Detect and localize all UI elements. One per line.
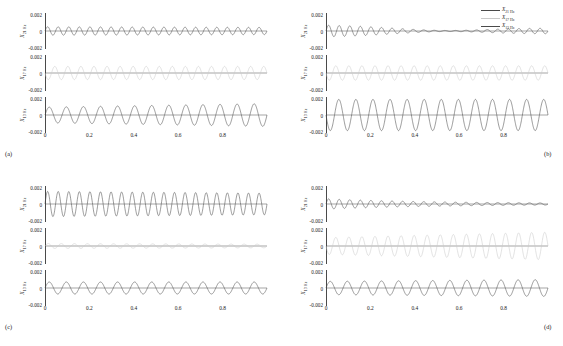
y-tick-label: -0.002 xyxy=(310,219,323,224)
y-tick-labels: 0.0020-0.002 xyxy=(295,183,325,225)
x-tick-label: 0 xyxy=(44,305,47,311)
legend: X21 HzX17 HzX13 Hz xyxy=(481,6,559,30)
subplot-x-21hz: X21 Hz0.0020-0.002 xyxy=(0,183,281,225)
y-tick-label: 0 xyxy=(320,245,323,250)
y-tick-label: -0.002 xyxy=(29,88,42,93)
x-tick-label: 0 xyxy=(325,132,328,138)
y-tick-label: -0.002 xyxy=(29,261,42,266)
subplot-x-17hz: X17 Hz0.0020-0.002 xyxy=(0,52,281,94)
x-tick-label: 0.4 xyxy=(130,132,137,138)
subplot-x-21hz: X21 Hz0.0020-0.002 xyxy=(0,10,281,52)
y-tick-label: 0 xyxy=(320,30,323,35)
y-tick-label: 0 xyxy=(320,287,323,292)
y-tick-labels: 0.0020-0.002 xyxy=(295,267,325,309)
y-tick-label: 0 xyxy=(320,114,323,119)
y-tick-label: -0.002 xyxy=(310,130,323,135)
y-tick-labels: 0.0020-0.002 xyxy=(14,10,44,52)
waveform-17hz xyxy=(45,55,267,91)
plot-area xyxy=(326,55,548,91)
x-tick-label: 0.4 xyxy=(411,305,418,311)
y-tick-label: 0 xyxy=(39,203,42,208)
x-tick-label: 0.8 xyxy=(219,305,226,311)
panel-d: X21 Hz0.0020-0.002X17 Hz0.0020-0.002X13 … xyxy=(281,173,562,346)
y-tick-labels: 0.0020-0.002 xyxy=(295,94,325,136)
y-tick-label: 0.002 xyxy=(311,186,323,191)
y-tick-labels: 0.0020-0.002 xyxy=(295,10,325,52)
x-tick-label: 0 xyxy=(44,132,47,138)
panel-b: X21 Hz0.0020-0.002X17 Hz0.0020-0.002X13 … xyxy=(281,0,562,173)
legend-item: X21 Hz xyxy=(481,6,559,14)
panel-label-a: (a) xyxy=(5,150,12,157)
x-tick-label: 0.8 xyxy=(500,305,507,311)
y-tick-label: -0.002 xyxy=(310,46,323,51)
x-tick-label: 0.2 xyxy=(86,305,93,311)
y-tick-label: -0.002 xyxy=(29,219,42,224)
y-tick-label: 0.002 xyxy=(30,13,42,18)
x-tick-label: 0.2 xyxy=(86,132,93,138)
y-tick-labels: 0.0020-0.002 xyxy=(14,94,44,136)
x-axis: 00.20.40.60.8 xyxy=(45,303,267,317)
y-tick-label: -0.002 xyxy=(29,303,42,308)
subplot-x-17hz: X17 Hz0.0020-0.002 xyxy=(0,225,281,267)
x-tick-label: 0.4 xyxy=(411,132,418,138)
y-tick-label: 0.002 xyxy=(30,55,42,60)
y-tick-label: -0.002 xyxy=(29,46,42,51)
x-axis: 00.20.40.60.8 xyxy=(326,303,548,317)
legend-swatch xyxy=(481,18,500,19)
waveform-21hz xyxy=(45,13,267,49)
plot-area xyxy=(45,228,267,264)
plot-area xyxy=(326,186,548,222)
y-tick-label: 0.002 xyxy=(311,13,323,18)
legend-label: X13 Hz xyxy=(502,22,514,30)
y-tick-label: 0.002 xyxy=(311,228,323,233)
legend-item: X13 Hz xyxy=(481,22,559,30)
legend-item: X17 Hz xyxy=(481,14,559,22)
y-tick-label: -0.002 xyxy=(310,303,323,308)
subplot-x-17hz: X17 Hz0.0020-0.002 xyxy=(281,52,562,94)
y-tick-label: 0.002 xyxy=(311,270,323,275)
panel-c: X21 Hz0.0020-0.002X17 Hz0.0020-0.002X13 … xyxy=(0,173,281,346)
y-tick-label: 0 xyxy=(320,203,323,208)
y-tick-label: 0 xyxy=(39,72,42,77)
legend-swatch xyxy=(481,26,500,27)
y-tick-label: 0.002 xyxy=(30,228,42,233)
plot-area xyxy=(45,186,267,222)
y-tick-labels: 0.0020-0.002 xyxy=(14,267,44,309)
y-tick-labels: 0.0020-0.002 xyxy=(14,183,44,225)
waveform-13hz xyxy=(45,97,267,133)
y-tick-label: 0.002 xyxy=(30,270,42,275)
x-tick-label: 0 xyxy=(325,305,328,311)
y-tick-label: 0.002 xyxy=(30,186,42,191)
plot-area xyxy=(45,270,267,306)
x-axis: 00.20.40.60.8 xyxy=(326,130,548,144)
y-tick-label: 0 xyxy=(39,287,42,292)
x-tick-label: 0.6 xyxy=(175,132,182,138)
waveform-13hz xyxy=(45,270,267,306)
plot-area xyxy=(45,97,267,133)
x-tick-label: 0.6 xyxy=(456,305,463,311)
panel-label-b: (b) xyxy=(544,150,551,157)
panel-label-c: (c) xyxy=(5,323,12,330)
legend-swatch xyxy=(481,10,500,11)
waveform-17hz xyxy=(326,228,548,264)
subplot-x-17hz: X17 Hz0.0020-0.002 xyxy=(281,225,562,267)
y-tick-label: -0.002 xyxy=(29,130,42,135)
x-axis: 00.20.40.60.8 xyxy=(45,130,267,144)
x-tick-label: 0.8 xyxy=(500,132,507,138)
y-tick-label: -0.002 xyxy=(310,88,323,93)
y-tick-labels: 0.0020-0.002 xyxy=(295,52,325,94)
x-tick-label: 0.8 xyxy=(219,132,226,138)
y-tick-label: -0.002 xyxy=(310,261,323,266)
y-tick-label: 0 xyxy=(39,245,42,250)
waveform-13hz xyxy=(326,97,548,133)
legend-label: X21 Hz xyxy=(502,6,514,14)
y-tick-labels: 0.0020-0.002 xyxy=(14,52,44,94)
subplot-x-21hz: X21 Hz0.0020-0.002 xyxy=(281,183,562,225)
x-tick-label: 0.6 xyxy=(456,132,463,138)
figure-panels: X21 Hz0.0020-0.002X17 Hz0.0020-0.002X13 … xyxy=(0,0,563,346)
waveform-13hz xyxy=(326,270,548,306)
y-tick-label: 0 xyxy=(39,114,42,119)
panel-a: X21 Hz0.0020-0.002X17 Hz0.0020-0.002X13 … xyxy=(0,0,281,173)
legend-label: X17 Hz xyxy=(502,14,514,22)
x-tick-label: 0.6 xyxy=(175,305,182,311)
